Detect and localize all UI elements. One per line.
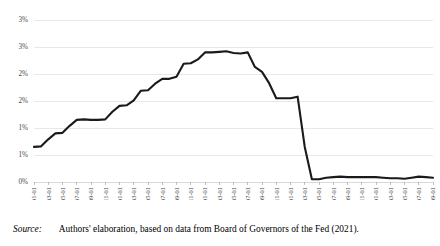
x-axis-tick-label: 2017-01-01	[30, 187, 37, 200]
y-axis-tick-label: 1%	[18, 151, 28, 159]
x-axis-tick-label: 2017-07-01	[73, 187, 80, 200]
x-axis-tick-label: 2019-09-01	[258, 187, 265, 200]
x-axis-tick-label: 2020-05-01	[315, 187, 322, 200]
x-axis-tick-labels: 2017-01-012017-03-012017-05-012017-07-01…	[30, 187, 436, 200]
y-axis-tick-label: 0%	[18, 178, 28, 186]
x-axis-tick-label: 2021-07-01	[415, 187, 422, 200]
x-axis-tick-label: 2020-07-01	[330, 187, 337, 200]
x-axis-tick-label: 2017-05-01	[59, 187, 66, 200]
y-axis-tick-label: 2%	[18, 97, 28, 105]
x-axis-tick-label: 2021-03-01	[387, 187, 394, 200]
x-axis-tick-label: 2019-05-01	[230, 187, 237, 200]
line-chart: 3%3%2%2%1%1%0% 2017-01-012017-03-012017-…	[0, 0, 440, 200]
caption-source-label: Source:	[0, 224, 42, 234]
chart-plot-area: 3%3%2%2%1%1%0% 2017-01-012017-03-012017-…	[0, 0, 440, 200]
data-line-federal-funds-rate	[34, 51, 433, 179]
x-axis-tick-label: 2019-03-01	[216, 187, 223, 200]
y-axis-tick-label: 3%	[18, 43, 28, 51]
x-axis-tick-label: 2020-03-01	[301, 187, 308, 200]
x-axis-tick-label: 2018-09-01	[173, 187, 180, 200]
x-axis-tick-label: 2018-07-01	[159, 187, 166, 200]
y-axis-tick-label: 1%	[18, 124, 28, 132]
x-axis-tick-label: 2020-09-01	[344, 187, 351, 200]
y-axis-tick-labels: 3%3%2%2%1%1%0%	[18, 16, 28, 186]
x-axis-tick-label: 2018-01-01	[116, 187, 123, 200]
x-axis-tick-label: 2018-11-01	[187, 187, 194, 200]
x-axis-tick-label: 2021-09-01	[429, 187, 436, 200]
x-axis-tick-label: 2021-01-01	[372, 187, 379, 200]
x-axis-tick-label: 2018-03-01	[130, 187, 137, 200]
caption-source-text: Authors' elaboration, based on data from…	[42, 224, 359, 234]
y-axis-tick-label: 2%	[18, 70, 28, 78]
x-axis-tick-label: 2018-05-01	[144, 187, 151, 200]
y-axis-tick-label: 3%	[18, 16, 28, 24]
figure-caption: Source: Authors' elaboration, based on d…	[0, 224, 440, 246]
x-axis-tickmarks	[34, 182, 433, 185]
x-axis-tick-label: 2019-01-01	[201, 187, 208, 200]
x-axis-tick-label: 2019-11-01	[273, 187, 280, 200]
x-axis-tick-label: 2020-01-01	[287, 187, 294, 200]
x-axis-tick-label: 2017-09-01	[87, 187, 94, 200]
gridlines	[34, 20, 433, 182]
x-axis-tick-label: 2020-11-01	[358, 187, 365, 200]
x-axis-tick-label: 2017-03-01	[45, 187, 52, 200]
x-axis-tick-label: 2021-05-01	[401, 187, 408, 200]
figure-container: 3%3%2%2%1%1%0% 2017-01-012017-03-012017-…	[0, 0, 440, 246]
x-axis-tick-label: 2017-11-01	[102, 187, 109, 200]
x-axis-tick-label: 2019-07-01	[244, 187, 251, 200]
